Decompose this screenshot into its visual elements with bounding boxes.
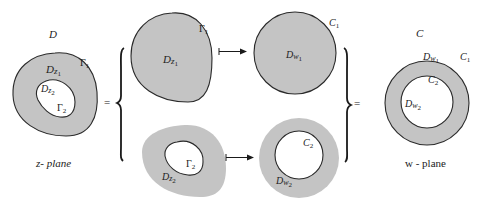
top-row-mapping: Γ1 Dz1 C1 Dw1 — [131, 12, 340, 102]
c1-label: C1 — [460, 51, 471, 64]
z-plane-label: z- plane — [35, 157, 71, 169]
bottom-row-mapping: Γ2 Dz2 C2 Dw2 — [142, 118, 339, 198]
equals-sign-left: = — [104, 96, 110, 108]
z-plane-domain: D Dz1 Γ1 Dz2 Γ2 z- plane — [13, 28, 97, 169]
bottom-target-inner-circle — [275, 131, 323, 179]
left-brace — [117, 48, 124, 161]
top-c1-label: C1 — [329, 17, 340, 30]
equals-sign-right: = — [354, 97, 360, 109]
maps-to-arrow-bottom — [226, 154, 254, 161]
domain-d-label: D — [48, 28, 57, 40]
right-brace — [344, 48, 351, 162]
domain-c-label: C — [416, 27, 424, 39]
conformal-mapping-diagram: D Dz1 Γ1 Dz2 Γ2 z- plane = Γ1 Dz1 — [0, 0, 482, 204]
w-plane-domain: C C1 Dw1 C2 Dw2 w - plane — [385, 27, 471, 169]
w-plane-label: w - plane — [405, 157, 446, 169]
maps-to-arrow-top — [219, 48, 247, 55]
